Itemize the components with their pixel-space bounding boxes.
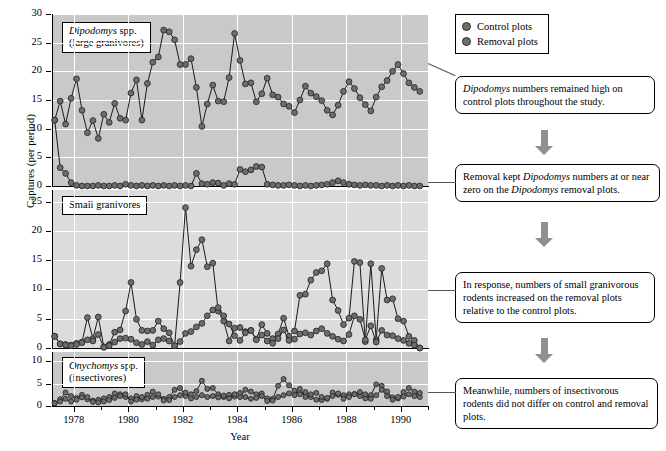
data-point-marker [390,333,396,339]
data-point-marker [270,182,276,188]
data-point-marker [287,391,292,396]
data-point-marker [85,183,91,189]
y-axis-tick-label: 10 [0,282,42,293]
data-point-marker [177,280,183,286]
data-point-marker [243,81,249,87]
data-point-marker [308,277,314,283]
data-point-marker [406,183,412,189]
flow-arrow-down-icon [535,130,553,155]
x-axis-tick-label: 1988 [326,414,366,425]
data-point-marker [264,338,270,344]
flow-arrow-down-icon [535,338,553,363]
data-point-marker [368,108,374,114]
data-point-marker [362,337,368,343]
data-point-marker [368,396,373,401]
data-point-marker [324,181,330,187]
data-point-marker [210,180,216,186]
data-point-marker [357,260,363,266]
data-point-marker [221,183,227,189]
data-point-marker [341,89,347,95]
data-point-marker [319,98,325,104]
data-point-marker [357,390,362,395]
data-point-marker [373,339,379,345]
data-point-marker [401,338,407,344]
data-point-marker [259,394,264,399]
legend-item-control: Control plots [462,19,538,34]
y-axis-tick [46,260,51,261]
data-point-marker [139,395,144,400]
data-point-marker [357,183,363,189]
data-point-marker [406,340,412,346]
data-point-marker [145,183,151,189]
data-point-marker [118,394,123,399]
data-point-marker [276,383,281,388]
data-point-marker [194,389,199,394]
data-point-marker [150,389,155,394]
data-point-marker [324,261,330,267]
data-point-marker [390,296,396,302]
data-point-marker [232,392,237,397]
data-point-marker [101,183,107,189]
data-point-marker [178,393,183,398]
data-point-marker [74,183,80,189]
data-point-marker [112,183,118,189]
data-point-marker [341,396,346,401]
data-point-marker [357,316,363,322]
data-point-marker [406,392,411,397]
data-point-marker [183,390,188,395]
data-point-marker [215,305,221,311]
data-point-marker [347,395,352,400]
y-axis-tick-label: 0 [0,179,42,190]
data-point-marker [139,342,145,348]
data-point-marker [384,297,390,303]
data-point-marker [264,181,270,187]
data-point-marker [74,342,80,348]
data-point-marker [363,392,368,397]
y-axis-tick [46,100,51,101]
data-point-marker [384,332,390,338]
y-axis-tick [46,289,51,290]
legend-marker-icon [462,37,471,46]
y-axis-tick [46,202,51,203]
data-point-marker [112,339,118,345]
data-point-marker [286,182,292,188]
legend-label-removal: Removal plots [477,34,538,49]
data-point-marker [308,332,314,338]
data-point-marker [205,395,210,400]
data-point-marker [172,343,178,349]
data-point-marker [248,80,254,86]
data-point-marker [232,325,238,331]
data-point-marker [189,396,194,401]
data-point-marker [199,124,205,130]
data-point-marker [238,390,243,395]
data-point-marker [145,339,151,345]
data-point-marker [221,313,227,319]
data-point-marker [128,280,134,286]
data-point-marker [314,390,319,395]
data-point-marker [346,315,352,321]
y-axis-tick-label: 10 [0,122,42,133]
y-axis-tick-label: 5 [0,377,42,388]
data-point-marker [384,78,390,84]
data-point-marker [259,91,265,97]
data-point-marker [352,313,358,319]
y-axis-tick [46,319,51,320]
data-point-marker [150,183,156,189]
data-point-marker [390,183,396,189]
data-point-marker [406,80,412,86]
data-point-marker [243,387,248,392]
data-point-marker [362,182,368,188]
y-axis-tick [46,14,51,15]
data-point-marker [63,396,68,401]
data-point-marker [150,59,156,65]
data-point-marker [335,178,341,184]
annotation-insectivores: Meanwhile, numbers of insectivorous rode… [455,378,658,429]
data-point-marker [253,99,259,105]
data-point-marker [352,86,358,92]
data-point-marker [401,318,407,324]
data-point-marker [362,102,368,108]
data-point-marker [177,62,183,68]
y-axis-tick [46,406,51,407]
data-point-marker [68,95,74,101]
data-point-marker [319,395,324,400]
